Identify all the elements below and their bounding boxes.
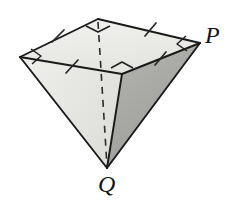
vertex-label-Q: Q [98,172,115,196]
vertex-label-P: P [205,23,220,47]
geometry-figure-container: P Q [0,0,241,200]
